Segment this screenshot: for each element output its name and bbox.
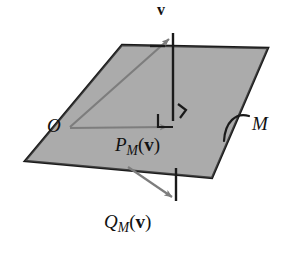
- label-projection-close-paren: ): [154, 134, 160, 155]
- projection-arrow: [70, 127, 167, 128]
- label-projection-subscript: M: [127, 143, 138, 158]
- plane-texture: [25, 45, 268, 178]
- label-plane: M: [252, 114, 268, 133]
- label-projection-argument: v: [144, 134, 154, 155]
- label-complement-subscript: M: [118, 220, 129, 235]
- label-complement: QM(v): [104, 212, 151, 235]
- label-complement-argument: v: [135, 211, 145, 232]
- label-complement-close-paren: ): [145, 211, 151, 232]
- label-vector-v: v: [157, 2, 165, 18]
- label-vector-v-text: v: [157, 1, 165, 18]
- label-projection: PM(v): [115, 135, 160, 158]
- projection-diagram: v O PM(v) QM(v) M: [0, 0, 287, 254]
- label-plane-text: M: [252, 113, 268, 134]
- label-projection-base: P: [115, 134, 127, 155]
- label-origin: O: [47, 116, 61, 135]
- label-origin-text: O: [47, 115, 61, 136]
- label-complement-base: Q: [104, 211, 118, 232]
